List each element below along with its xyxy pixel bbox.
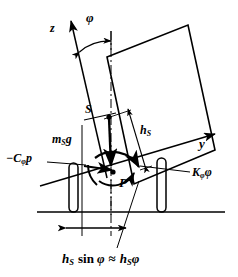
- gravity-symbol: g: [66, 132, 72, 146]
- roll-angle-arc: [80, 31, 112, 52]
- vehicle-body-outline: [107, 25, 215, 184]
- equation-leader-line: [117, 181, 139, 248]
- cg-height-subscript: S: [147, 129, 151, 138]
- equation-sin-function: sin: [78, 251, 94, 266]
- projection-lines: [82, 125, 111, 236]
- weight-force-label: mSg: [52, 133, 72, 147]
- cg-height-symbol: h: [140, 123, 147, 137]
- z-axis-label: z: [50, 22, 55, 34]
- right-wheel: [157, 158, 166, 212]
- roll-angle-symbol: φ: [205, 165, 212, 179]
- damping-moment-label: −Cφp: [6, 152, 32, 166]
- stiffness-moment-symbol: K: [192, 165, 200, 179]
- roll-dynamics-figure: z φ y S P mSg hS −Cφp Kφφ hSsinφ≈hSφ: [0, 0, 238, 277]
- lateral-offset-equation: hSsinφ≈hSφ: [62, 252, 139, 267]
- roll-center-label: P: [119, 176, 127, 189]
- cg-height-label: hS: [140, 124, 151, 138]
- damping-moment-symbol: −C: [6, 151, 21, 165]
- equation-approx-sign: ≈: [109, 251, 116, 266]
- stiffness-moment-label: Kφφ: [192, 166, 212, 180]
- y-axis-label: y: [199, 137, 205, 150]
- equation-rhs-phi-symbol: φ: [132, 251, 140, 266]
- equation-phi-symbol: φ: [97, 251, 105, 266]
- roll-rate-symbol: p: [26, 151, 32, 165]
- damping-moment-leader: [47, 162, 86, 165]
- equation-h-subscript: S: [69, 257, 74, 267]
- left-wheel: [69, 163, 78, 212]
- center-of-gravity-label: S: [85, 103, 92, 115]
- roll-angle-label: φ: [86, 11, 94, 24]
- weight-force-symbol: m: [52, 132, 61, 146]
- equation-rhs-h-symbol: h: [120, 251, 127, 266]
